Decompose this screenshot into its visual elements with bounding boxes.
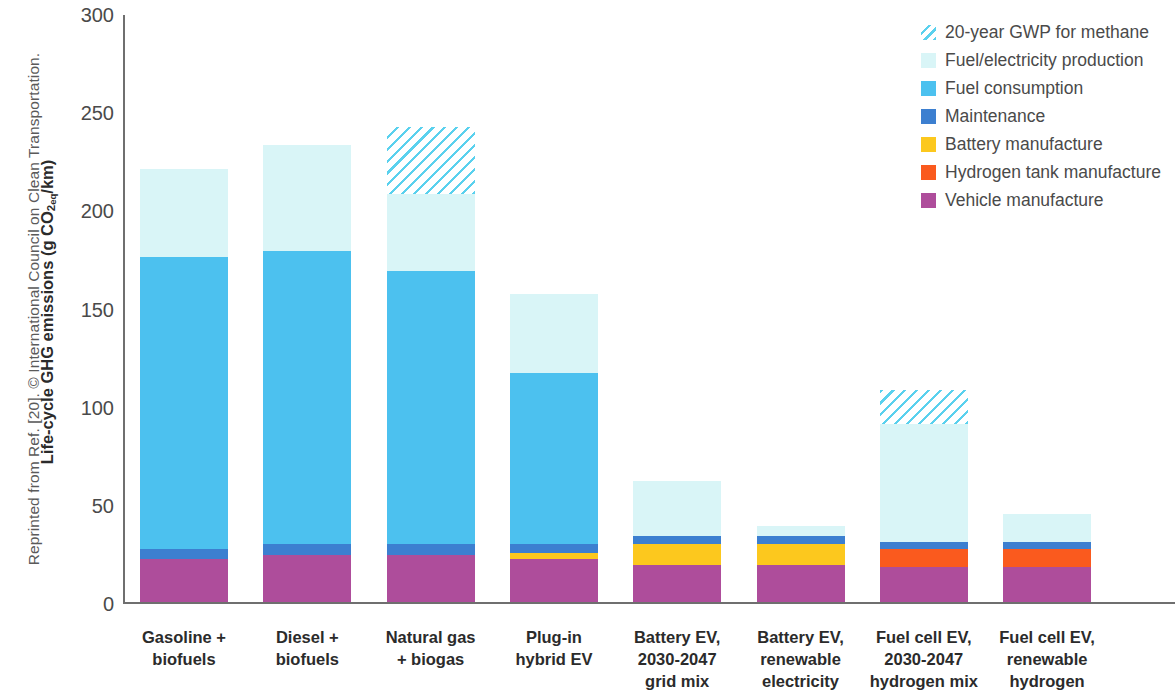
bar-segment-maint [633, 536, 721, 544]
y-axis-tick-300: 300 [81, 4, 114, 27]
legend-label: Fuel/electricity production [945, 50, 1143, 71]
bar-segment-veh [140, 559, 228, 602]
y-axis-title-post: /km) [38, 160, 56, 194]
legend-label: 20-year GWP for methane [945, 22, 1149, 43]
legend-label: Battery manufacture [945, 134, 1103, 155]
legend-label: Maintenance [945, 106, 1045, 127]
bar-segment-batt [510, 553, 598, 559]
legend-swatch-icon [921, 137, 936, 152]
legend-swatch-icon [921, 81, 936, 96]
legend-item-1[interactable]: 20-year GWP for methane [921, 18, 1161, 46]
x-axis-label-line: hydrogen [972, 671, 1122, 692]
bar-7 [880, 390, 968, 602]
bar-segment-batt [757, 544, 845, 566]
bar-segment-prod [263, 145, 351, 251]
bar-segment-batt [633, 544, 721, 566]
x-axis-label-line: Fuel cell EV, [972, 627, 1122, 649]
y-axis-line [123, 15, 125, 604]
bar-1 [140, 169, 228, 603]
bar-segment-maint [387, 544, 475, 556]
bar-segment-maint [880, 542, 968, 550]
y-axis-tick-250: 250 [81, 102, 114, 125]
bar-segment-h2 [1003, 549, 1091, 567]
bar-3 [387, 127, 475, 602]
bar-segment-veh [880, 567, 968, 602]
bar-segment-veh [263, 555, 351, 602]
y-axis-title-eq: eq [47, 194, 58, 205]
legend-item-4[interactable]: Maintenance [921, 102, 1161, 130]
legend-item-5[interactable]: Battery manufacture [921, 130, 1161, 158]
bar-2 [263, 145, 351, 602]
x-axis-label-8: Fuel cell EV,renewablehydrogen [972, 627, 1122, 692]
bar-segment-veh [387, 555, 475, 602]
bar-segment-prod [880, 424, 968, 542]
bar-segment-fuel [387, 271, 475, 544]
legend-item-2[interactable]: Fuel/electricity production [921, 46, 1161, 74]
legend-swatch-icon [921, 25, 936, 40]
bar-segment-veh [757, 565, 845, 602]
bar-segment-prod [140, 169, 228, 257]
bar-6 [757, 526, 845, 603]
bar-8 [1003, 514, 1091, 602]
bar-segment-maint [757, 536, 845, 544]
chart-legend: 20-year GWP for methaneFuel/electricity … [921, 18, 1161, 214]
bar-segment-gwp [387, 127, 475, 194]
y-axis-tick-100: 100 [81, 396, 114, 419]
bar-segment-h2 [880, 549, 968, 567]
x-axis-label-line: renewable [972, 649, 1122, 671]
y-axis-tick-0: 0 [103, 593, 114, 616]
bar-segment-veh [633, 565, 721, 602]
legend-label: Fuel consumption [945, 78, 1083, 99]
bar-segment-prod [757, 526, 845, 536]
legend-item-3[interactable]: Fuel consumption [921, 74, 1161, 102]
y-axis-tick-150: 150 [81, 298, 114, 321]
bar-segment-gwp [880, 390, 968, 423]
bar-segment-prod [510, 294, 598, 373]
y-axis-tick-200: 200 [81, 200, 114, 223]
bar-segment-prod [1003, 514, 1091, 541]
bar-segment-prod [633, 481, 721, 536]
legend-item-6[interactable]: Hydrogen tank manufacture [921, 158, 1161, 186]
y-axis-title-sub: 2 [45, 205, 57, 211]
legend-item-7[interactable]: Vehicle manufacture [921, 186, 1161, 214]
bar-segment-maint [140, 549, 228, 559]
legend-swatch-icon [921, 193, 936, 208]
bar-segment-maint [510, 544, 598, 554]
bar-segment-veh [510, 559, 598, 602]
legend-label: Vehicle manufacture [945, 190, 1104, 211]
x-axis-line [123, 602, 1175, 604]
bar-segment-fuel [263, 251, 351, 544]
bar-segment-maint [1003, 542, 1091, 550]
bar-4 [510, 294, 598, 602]
y-axis-title-pre: Life-cycle GHG emissions (g CO [38, 211, 56, 464]
bar-segment-fuel [510, 373, 598, 544]
bar-segment-prod [387, 194, 475, 271]
y-axis-title: Life-cycle GHG emissions (g CO2eq/km) [38, 97, 58, 527]
legend-swatch-icon [921, 109, 936, 124]
legend-swatch-icon [921, 53, 936, 68]
legend-label: Hydrogen tank manufacture [945, 162, 1161, 183]
legend-swatch-icon [921, 165, 936, 180]
bar-5 [633, 481, 721, 603]
bar-segment-fuel [140, 257, 228, 550]
bar-segment-veh [1003, 567, 1091, 602]
bar-segment-maint [263, 544, 351, 556]
y-axis-tick-50: 50 [92, 494, 114, 517]
